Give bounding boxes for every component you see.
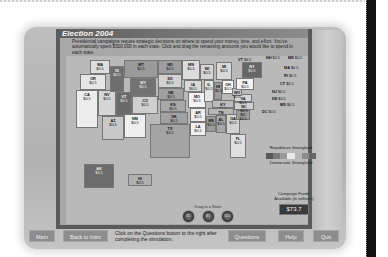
- state-mt[interactable]: MT$0.5: [124, 60, 158, 78]
- state-value: $0.5: [287, 103, 294, 107]
- drag-tokens-area: Drag to a State $1 $5 $10: [178, 204, 238, 224]
- state-value: $0.5: [166, 67, 173, 71]
- state-abbr: MA: [284, 66, 290, 70]
- state-value: $0.5: [103, 97, 110, 101]
- money-token-5[interactable]: $5: [202, 210, 215, 223]
- state-dc[interactable]: DC $0.5: [262, 110, 276, 114]
- state-me[interactable]: ME $0.5: [288, 56, 302, 60]
- state-wy[interactable]: WY$0.5: [130, 78, 156, 96]
- state-nh[interactable]: NH $0.5: [266, 56, 280, 60]
- state-az[interactable]: AZ$0.5: [102, 116, 124, 140]
- state-ak[interactable]: AK$0.5: [84, 164, 114, 188]
- state-id[interactable]: ID$0.5: [110, 66, 124, 92]
- legend-swatch: [287, 153, 294, 159]
- state-value: $0.5: [109, 123, 116, 127]
- main-button[interactable]: Main: [29, 230, 55, 242]
- state-in[interactable]: IN$0.5: [214, 82, 222, 100]
- state-ar[interactable]: AR$0.5: [190, 108, 206, 122]
- state-ms[interactable]: MS$0.5: [206, 116, 216, 132]
- state-value: $0.5: [194, 129, 201, 133]
- state-value: $0.5: [239, 101, 246, 105]
- state-hi[interactable]: HI$0.5: [128, 174, 152, 186]
- quit-button[interactable]: Quit: [313, 230, 339, 242]
- state-value: $0.5: [194, 115, 201, 119]
- legend-republican-label: Republican Stronghold: [266, 146, 316, 151]
- state-pa[interactable]: PA$0.5: [236, 78, 254, 90]
- state-nm[interactable]: NM$0.5: [124, 114, 146, 138]
- state-value: $0.5: [289, 74, 296, 78]
- state-value: $0.5: [239, 117, 246, 121]
- window-title: Election 2004: [60, 29, 113, 38]
- state-sd[interactable]: SD$0.5: [158, 74, 182, 88]
- state-abbr: CT: [280, 82, 285, 86]
- state-value: $0.5: [286, 82, 293, 86]
- state-fl[interactable]: FL$0.5: [230, 134, 246, 158]
- legend-swatch: [309, 153, 316, 159]
- legend-swatch: [302, 153, 309, 159]
- state-value: $0.5: [273, 56, 280, 60]
- state-de[interactable]: DE $0.5: [272, 97, 286, 101]
- state-ok[interactable]: OK$0.5: [160, 112, 188, 124]
- state-value: $0.5: [141, 103, 148, 107]
- state-value: $0.5: [217, 122, 224, 126]
- state-ca[interactable]: CA$0.5: [76, 90, 98, 128]
- money-token-1[interactable]: $1: [182, 210, 195, 223]
- state-abbr: RI: [284, 74, 288, 78]
- state-il[interactable]: IL$0.5: [204, 80, 214, 102]
- state-wa[interactable]: WA$0.5: [90, 60, 110, 74]
- legend-swatch: [295, 153, 302, 159]
- state-al[interactable]: AL$0.5: [216, 115, 226, 133]
- legend-swatch: [273, 153, 280, 159]
- state-value: $0.5: [241, 85, 248, 89]
- state-ny[interactable]: NY$0.5: [242, 62, 262, 78]
- state-value: $0.5: [203, 71, 210, 75]
- state-value: $0.5: [207, 123, 214, 127]
- funds-label: Campaign Funds Available (in millions): [272, 192, 316, 202]
- state-md[interactable]: MD $0.5: [280, 103, 294, 107]
- money-token-10[interactable]: $10: [221, 210, 234, 223]
- state-nv[interactable]: NV$0.5: [98, 90, 116, 116]
- state-ri[interactable]: RI $0.5: [284, 74, 296, 78]
- state-ne[interactable]: NE$0.5: [158, 88, 184, 100]
- simulation-frame: Election 2004 Presidential campaigns req…: [56, 29, 312, 229]
- questions-button[interactable]: Questions: [228, 230, 266, 242]
- state-value: $0.5: [291, 66, 298, 70]
- state-co[interactable]: CO$0.5: [132, 96, 158, 114]
- state-value: $0.5: [131, 121, 138, 125]
- campaign-funds: Campaign Funds Available (in millions) $…: [272, 192, 316, 215]
- state-mi[interactable]: MI$0.5: [216, 62, 232, 80]
- state-value: $0.5: [234, 141, 241, 145]
- state-ia[interactable]: IA$0.5: [184, 80, 202, 92]
- state-nj[interactable]: NJ $0.5: [272, 90, 285, 94]
- state-value: $0.5: [220, 69, 227, 73]
- back-to-intro-button[interactable]: Back to Intro: [63, 230, 108, 242]
- state-value: $0.5: [166, 81, 173, 85]
- top-border: [0, 0, 365, 2]
- state-ct[interactable]: CT $0.5: [280, 82, 294, 86]
- state-value: $0.5: [193, 99, 200, 103]
- state-value: $0.5: [95, 171, 102, 175]
- state-tx[interactable]: TX$0.5: [150, 124, 190, 158]
- state-vt[interactable]: VT $0.5: [238, 58, 251, 62]
- help-button[interactable]: Help: [278, 230, 304, 242]
- state-abbr: NH: [266, 56, 271, 60]
- questions-hint: Click on the Questions button to the rig…: [115, 230, 225, 242]
- state-value: $0.5: [136, 181, 143, 185]
- state-nd[interactable]: ND$0.5: [158, 60, 182, 74]
- window-edge: [366, 0, 376, 257]
- us-map: Republican Stronghold Democratic Strongh…: [66, 56, 308, 224]
- state-la[interactable]: LA$0.5: [190, 122, 206, 136]
- legend: Republican Stronghold Democratic Strongh…: [266, 146, 316, 165]
- state-value: $0.5: [248, 69, 255, 73]
- state-ma[interactable]: MA $0.5: [284, 66, 298, 70]
- state-ky[interactable]: KY$0.5: [212, 100, 234, 108]
- state-mn[interactable]: MN$0.5: [182, 60, 200, 80]
- state-wi[interactable]: WI$0.5: [200, 64, 214, 80]
- state-value: $0.5: [240, 109, 247, 113]
- state-value: $0.5: [233, 95, 240, 99]
- instructions-text: Presidential campaigns require strategic…: [72, 39, 300, 55]
- state-value: $0.5: [137, 67, 144, 71]
- state-ut[interactable]: UT$0.5: [116, 92, 132, 116]
- state-or[interactable]: OR$0.5: [80, 74, 106, 90]
- state-ks[interactable]: KS$0.5: [160, 100, 186, 112]
